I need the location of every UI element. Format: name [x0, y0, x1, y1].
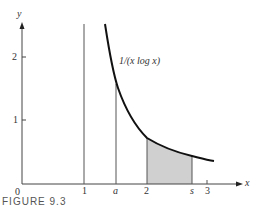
y-tick-label-1: 1	[13, 114, 18, 125]
x-axis-arrow	[236, 182, 243, 187]
curve	[105, 24, 214, 161]
x-axis-label: x	[245, 177, 249, 188]
y-axis-arrow	[20, 22, 25, 29]
x-tick-label-s: s	[190, 185, 194, 196]
x-tick-label-3: 3	[205, 185, 210, 196]
figure-caption: FIGURE 9.3	[2, 196, 66, 207]
shaded-region	[147, 138, 192, 184]
x-tick-label-a: a	[113, 185, 118, 196]
x-tick-label-2: 2	[144, 185, 149, 196]
y-tick-label-2: 2	[12, 51, 17, 62]
figure-plot	[0, 0, 261, 217]
curve-label: 1/(x log x)	[119, 55, 160, 66]
x-tick-label-1: 1	[82, 185, 87, 196]
y-axis-label: y	[17, 8, 21, 19]
